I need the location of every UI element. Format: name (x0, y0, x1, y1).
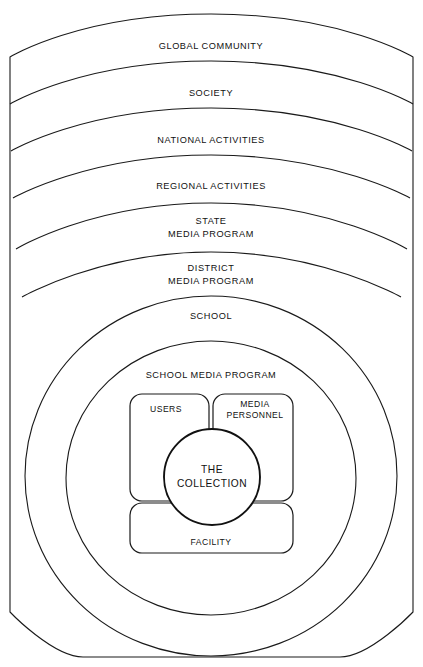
core-label-users: USERS (150, 404, 182, 414)
core-label-media-personnel-line2: PERSONNEL (226, 410, 283, 420)
ring-outline-district-media-program (22, 252, 401, 297)
core-label-facility: FACILITY (191, 537, 232, 547)
ring-label-global-community: GLOBAL COMMUNITY (159, 41, 263, 51)
core-label-media-personnel-line1: MEDIA (240, 399, 269, 409)
ring-label-district-media-program-line2: MEDIA PROGRAM (168, 276, 254, 286)
concentric-diagram: GLOBAL COMMUNITY SOCIETY NATIONAL ACTIVI… (0, 0, 423, 667)
ring-label-regional-activities: REGIONAL ACTIVITIES (156, 181, 266, 191)
diagram-canvas: GLOBAL COMMUNITY SOCIETY NATIONAL ACTIVI… (0, 0, 423, 667)
core-label-the-collection-line1: THE (201, 464, 223, 475)
ring-label-school: SCHOOL (190, 311, 232, 321)
ring-label-school-media-program: SCHOOL MEDIA PROGRAM (146, 370, 277, 380)
ring-outline-regional-activities (13, 155, 410, 198)
ring-label-society: SOCIETY (189, 88, 233, 98)
ring-label-state-media-program-line2: MEDIA PROGRAM (168, 229, 254, 239)
ring-label-state-media-program-line1: STATE (196, 216, 227, 226)
ring-outline-global-community (10, 14, 413, 657)
ring-label-district-media-program-line1: DISTRICT (188, 263, 235, 273)
ring-label-national-activities: NATIONAL ACTIVITIES (157, 135, 264, 145)
core-label-the-collection-line2: COLLECTION (177, 478, 247, 489)
